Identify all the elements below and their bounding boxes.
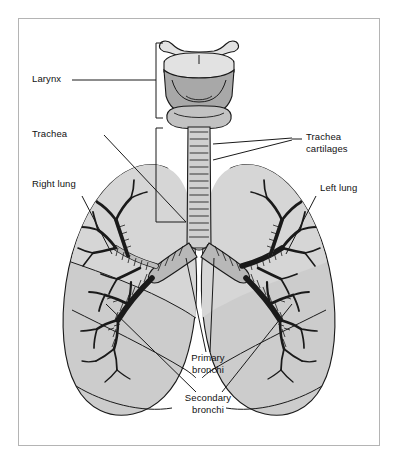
label-secondary-bronchi-line1: Secondary — [158, 392, 258, 404]
label-secondary-bronchi-line2: bronchi — [158, 404, 258, 416]
larynx — [159, 41, 238, 129]
label-trachea: Trachea — [32, 128, 67, 140]
label-right-lung: Right lung — [32, 178, 76, 190]
larynx-bracket — [156, 43, 163, 118]
diagram-page: Larynx Trachea Right lung Trachea cartil… — [0, 0, 398, 467]
trachea — [186, 127, 212, 248]
label-trachea-cartilages-line1: Trachea — [306, 131, 341, 143]
label-larynx: Larynx — [32, 73, 61, 85]
label-trachea-cartilages-line2: cartilages — [306, 143, 348, 155]
label-primary-bronchi-line1: Primary — [158, 352, 258, 364]
label-primary-bronchi-line2: bronchi — [158, 364, 258, 376]
label-left-lung: Left lung — [320, 182, 357, 194]
